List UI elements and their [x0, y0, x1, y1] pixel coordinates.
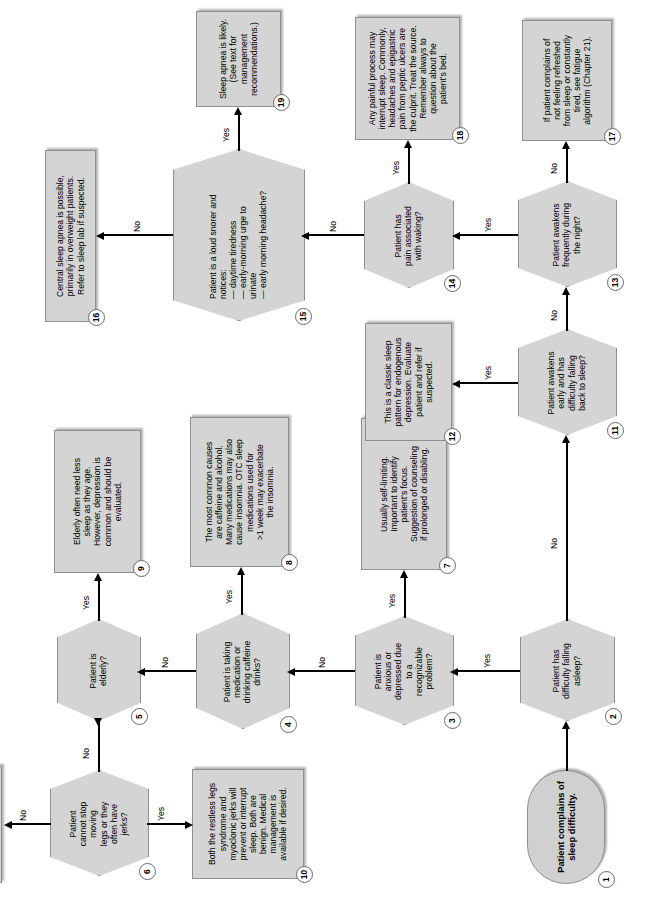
node-15[interactable]: Patient is a loud snorer and notices: — … [173, 151, 303, 321]
node-2[interactable]: Patient has difficulty falling asleep? [520, 621, 613, 721]
edge-label-2-to-11: No [549, 538, 559, 549]
edge-label-3-to-7: Yes [387, 594, 397, 608]
edge-3-to-4-arrowhead [287, 668, 295, 676]
node-8-badge: 8 [281, 554, 298, 571]
edge-5-to-9-arrowhead [94, 573, 102, 581]
edge-label-14-to-15: No [328, 221, 338, 232]
edge-label-2-to-3: Yes [482, 654, 492, 668]
edge-13-to-14 [458, 234, 518, 236]
edge-1-to-2-arrowhead [562, 721, 570, 729]
edge-4-to-8 [241, 571, 243, 615]
node-11-label: Patient awakens early and has difficulty… [546, 351, 587, 414]
edge-2-to-11 [566, 439, 568, 621]
node-8[interactable]: The most common causes are caffeine and … [190, 417, 289, 567]
edge-6-to-endbox-arrowhead [4, 821, 12, 829]
node-4[interactable]: Patient is taking medication or drinking… [196, 615, 288, 729]
node-18-label: Any painful process may interrupt sleep.… [367, 25, 448, 132]
edge-label-11-to-13: No [549, 310, 559, 321]
edge-15-to-19-arrowhead [234, 107, 242, 115]
edge-11-to-13-arrowhead [562, 287, 570, 295]
edge-label-15-to-16: No [132, 221, 142, 232]
edge-5-to-6 [98, 721, 100, 772]
edge-2-to-3-arrowhead [450, 668, 458, 676]
node-14[interactable]: Patient has pain associated with waking? [364, 184, 452, 288]
node-8-label: The most common causes are caffeine and … [204, 439, 275, 545]
node-4-badge: 4 [280, 716, 297, 733]
node-11[interactable]: Patient awakens early and has difficulty… [518, 331, 615, 435]
edge-4-to-5 [143, 670, 196, 672]
edge-label-15-to-19: Yes [221, 128, 231, 142]
node-2-badge: 2 [605, 708, 622, 725]
node-13-label: Patient awakens frequently during the ni… [551, 203, 581, 267]
edge-4-to-5-arrowhead [137, 668, 145, 676]
node-2-label: Patient has difficulty falling asleep? [551, 643, 581, 699]
edge-13-to-17-arrowhead [562, 141, 570, 149]
edge-label-4-to-8: Yes [224, 590, 234, 604]
edge-11-to-12 [458, 382, 518, 384]
node-17-label: If patient complains of not feeling refr… [542, 35, 593, 126]
node-13-badge: 13 [607, 274, 624, 291]
edge-label-5-to-6: No [81, 748, 91, 759]
node-19-badge: 19 [273, 94, 290, 111]
node-evaluate-sleep-environment[interactable]: Evaluate sleep environment and make appr… [0, 766, 2, 883]
edge-3-to-4 [293, 670, 355, 672]
node-16-label: Central sleep apnea is possible, primari… [55, 175, 85, 297]
node-19-label: Sleep apnea is likely. (See text for man… [218, 19, 259, 99]
edge-6-to-endbox [10, 823, 51, 825]
node-15-label: Patient is a loud snorer and notices: — … [208, 191, 269, 321]
node-10-label: Both the restless legs syndrome and myoc… [207, 783, 288, 865]
node-9-badge: 9 [133, 560, 150, 577]
edge-13-to-14-arrowhead [452, 232, 460, 240]
node-14-label: Patient has pain associated with waking? [393, 206, 423, 266]
node-14-badge: 14 [444, 275, 461, 292]
edge-14-to-18 [408, 144, 410, 184]
node-17[interactable]: If patient complains of not feeling refr… [522, 20, 612, 141]
node-13[interactable]: Patient awakens frequently during the ni… [518, 183, 615, 287]
node-6[interactable]: Patient cannot stop moving legs or they … [50, 772, 147, 876]
node-3-badge: 3 [444, 712, 461, 729]
node-6-label: Patient cannot stop moving legs or they … [68, 802, 129, 846]
edge-4-to-8-arrowhead [237, 567, 245, 575]
edge-15-to-16-arrowhead [96, 232, 104, 240]
node-5-label: Patient is elderly? [88, 653, 108, 688]
node-18[interactable]: Any painful process may interrupt sleep.… [355, 17, 460, 140]
node-1[interactable]: Patient complains of sleep difficulty. [527, 770, 605, 884]
edge-5-to-9 [98, 577, 100, 621]
node-15-badge: 15 [295, 308, 312, 325]
node-5[interactable]: Patient is elderly? [57, 621, 139, 721]
node-19[interactable]: Sleep apnea is likely. (See text for man… [196, 11, 281, 107]
edge-label-6-to-endbox: No [18, 810, 28, 821]
node-16-badge: 16 [88, 309, 105, 326]
edge-2-to-3 [456, 670, 520, 672]
node-12-label: This is a classic sleep pattern for endo… [383, 338, 434, 427]
node-1-badge: 1 [598, 871, 615, 888]
edge-13-to-17 [566, 145, 568, 183]
node-9-label: Elderly often need less sleep as they ag… [72, 457, 123, 546]
edge-label-5-to-9: Yes [81, 596, 91, 610]
node-7-badge: 7 [439, 557, 456, 574]
node-7-label: Usually self-limiting. Important to iden… [379, 446, 430, 542]
edge-2-to-11-arrowhead [562, 435, 570, 443]
edge-label-13-to-14: Yes [483, 218, 493, 232]
node-3[interactable]: Patient is anxious or depressed due to a… [355, 618, 452, 725]
node-17-badge: 17 [604, 128, 621, 145]
edge-6-to-10 [147, 823, 189, 825]
node-6-badge: 6 [139, 863, 156, 880]
node-3-label: Patient is anxious or depressed due to a… [373, 643, 434, 700]
node-10[interactable]: Both the restless legs syndrome and myoc… [192, 769, 304, 879]
node-11-badge: 11 [607, 422, 624, 439]
edge-label-6-to-10: Yes [156, 807, 166, 821]
edge-6-to-10-arrowhead [185, 821, 193, 829]
node-4-label: Patient is taking medication or drinking… [222, 641, 263, 703]
edge-11-to-13 [566, 291, 568, 331]
node-12[interactable]: This is a classic sleep pattern for endo… [365, 323, 452, 441]
flowchart-canvas: Patient complains of sleep difficulty. 1… [0, 0, 657, 901]
node-5-badge: 5 [131, 708, 148, 725]
node-18-badge: 18 [452, 127, 469, 144]
edge-label-3-to-4: No [317, 657, 327, 668]
node-16[interactable]: Central sleep apnea is possible, primari… [45, 150, 96, 322]
edge-label-13-to-17: No [549, 163, 559, 174]
node-9[interactable]: Elderly often need less sleep as they ag… [54, 430, 141, 573]
edge-3-to-7 [404, 574, 406, 618]
node-1-label: Patient complains of sleep difficulty. [555, 781, 577, 873]
